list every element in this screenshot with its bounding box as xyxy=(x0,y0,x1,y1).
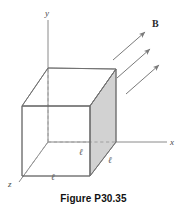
cube-shaded-face xyxy=(90,69,116,176)
magnetic-field-arrow-1 xyxy=(113,32,145,60)
cube-edge-top-back xyxy=(48,68,116,69)
magnetic-field-arrow-group xyxy=(113,32,159,94)
y-axis-label: y xyxy=(45,9,49,18)
cube-edge-label-inner: ℓ xyxy=(79,148,83,157)
figure-caption: Figure P30.35 xyxy=(0,193,187,204)
figure-container: y x z B ℓ ℓ ℓ Figure P30.35 xyxy=(0,0,187,212)
cube-edge-label-right-face: ℓ xyxy=(108,156,112,165)
cube-edge-label-bottom-front: ℓ xyxy=(51,173,55,182)
x-axis-label: x xyxy=(170,138,174,147)
z-axis-label: z xyxy=(8,180,12,189)
cube-edge-top-left-depth xyxy=(22,68,48,106)
cube-front-face xyxy=(22,106,90,176)
magnetic-field-arrow-2 xyxy=(117,49,150,78)
magnetic-field-arrow-3 xyxy=(126,65,159,94)
magnetic-field-label: B xyxy=(152,19,159,29)
cube-group xyxy=(22,68,116,178)
figure-diagram xyxy=(0,0,187,212)
